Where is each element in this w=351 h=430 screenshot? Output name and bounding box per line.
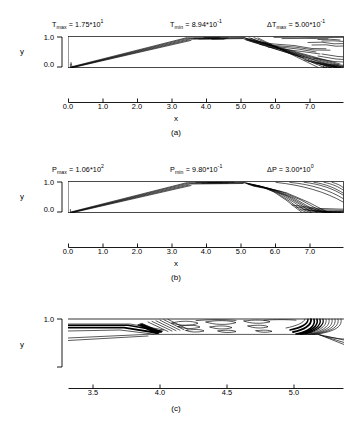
panel-b-xtick-1: 1.0 [93,247,113,257]
panel-a-x-tick-labels: 0.0 1.0 2.0 3.0 4.0 5.0 6.0 7.0 [68,102,344,112]
panel-c-x-tick-labels: 3.5 4.0 4.5 5.0 [68,388,344,398]
panel-a-ytick-0: 0.0 [32,60,54,69]
panel-b-y-axis-name: y [20,192,24,202]
panel-a-xtick-7: 7.0 [300,102,320,112]
panel-b-xtick-2: 2.0 [127,247,147,257]
annotation-delta-t-max: ΔTmax = 5.00*10-1 [267,19,325,31]
panel-b-xtick-5: 5.0 [231,247,251,257]
panel-a-plot-area [68,36,344,68]
panel-a-x-axis-name: x [166,114,186,124]
panel-a-xtick-4: 4.0 [196,102,216,112]
panel-c-xtick-1: 4.0 [150,388,170,398]
panel-c-caption: (c) [156,404,196,414]
panel-b-x-axis-name: x [166,259,186,269]
panel-b-ytick-0: 0.0 [32,205,54,214]
panel-a-xtick-3: 3.0 [162,102,182,112]
panel-c: y 1.0 [0,290,351,430]
annotation-p-min: Pmin = 9.80*10-1 [170,164,222,176]
figure-contour-plots: Tmax = 1.75*101 Tmin = 8.94*10-1 ΔTmax =… [0,0,351,430]
annotation-p-max: Pmax = 1.06*102 [52,164,104,176]
panel-a-xtick-5: 5.0 [231,102,251,112]
panel-c-plot-area [68,318,344,358]
annotation-t-min: Tmin = 8.94*10-1 [170,19,222,31]
panel-b-x-tick-labels: 0.0 1.0 2.0 3.0 4.0 5.0 6.0 7.0 [68,247,344,257]
panel-b: Pmax = 1.06*102 Pmin = 9.80*10-1 ΔP = 3.… [0,145,351,290]
annotation-delta-p: ΔP = 3.00*100 [267,164,314,176]
panel-a-xtick-2: 2.0 [127,102,147,112]
panel-b-xtick-7: 7.0 [300,247,320,257]
panel-a: Tmax = 1.75*101 Tmin = 8.94*10-1 ΔTmax =… [0,0,351,145]
panel-b-y-bracket [56,181,64,217]
panel-c-xtick-2: 4.5 [217,388,237,398]
panel-a-ytick-1: 1.0 [32,33,54,42]
panel-c-y-bracket [56,318,64,372]
panel-a-xtick-1: 1.0 [93,102,113,112]
panel-b-xtick-3: 3.0 [162,247,182,257]
panel-a-xtick-6: 6.0 [265,102,285,112]
panel-c-xtick-3: 5.0 [284,388,304,398]
panel-c-ytick-1: 1.0 [32,315,54,324]
panel-b-annotations: Pmax = 1.06*102 Pmin = 9.80*10-1 ΔP = 3.… [52,164,344,176]
annotation-t-max: Tmax = 1.75*101 [52,19,104,31]
panel-b-xtick-0: 0.0 [58,247,78,257]
panel-a-y-bracket [56,36,64,72]
panel-c-y-axis-name: y [20,340,24,350]
panel-b-xtick-6: 6.0 [265,247,285,257]
panel-a-y-axis-name: y [20,47,24,57]
panel-c-xtick-0: 3.5 [83,388,103,398]
panel-b-plot-area [68,181,344,213]
panel-a-annotations: Tmax = 1.75*101 Tmin = 8.94*10-1 ΔTmax =… [52,19,344,31]
panel-b-xtick-4: 4.0 [196,247,216,257]
panel-a-caption: (a) [156,128,196,138]
panel-b-caption: (b) [156,273,196,283]
panel-b-ytick-1: 1.0 [32,178,54,187]
panel-a-xtick-0: 0.0 [58,102,78,112]
